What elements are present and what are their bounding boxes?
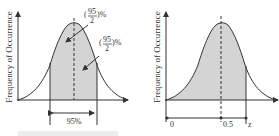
interval-label: 95% (67, 117, 82, 126)
scale-point-0 (165, 116, 168, 119)
x-label-0-5: 0.5 (223, 120, 233, 129)
annotation-top-numerator: 95 (88, 7, 96, 16)
x-label-z: z (248, 120, 252, 129)
left-normal-curve-panel: 95% ( 95 2 )% ( 95 2 )% Frequency of Occ… (4, 7, 128, 126)
x-label-0: 0 (170, 120, 174, 129)
annotation-right-suffix: )% (112, 38, 122, 47)
diagram-canvas: 95% ( 95 2 )% ( 95 2 )% Frequency of Occ… (0, 0, 279, 136)
right-normal-curve-panel: 0 0.5 z Frequency of Occurrence (152, 11, 278, 129)
left-y-axis-label: Frequency of Occurrence (4, 11, 14, 102)
annotation-top-prefix: ( (84, 10, 87, 19)
annotation-right-numerator: 95 (103, 35, 111, 44)
annotation-right-denominator: 2 (105, 44, 109, 53)
annotation-right-prefix: ( (99, 38, 102, 47)
cut-off-caption-row (18, 131, 118, 136)
annotation-top-suffix: )% (97, 10, 107, 19)
annotation-top-denominator: 2 (90, 16, 94, 25)
right-y-axis-label: Frequency of Occurrence (152, 11, 162, 102)
